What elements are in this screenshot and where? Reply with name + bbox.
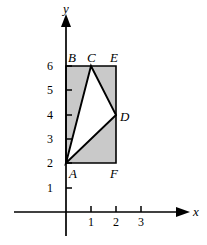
point-label-A: A xyxy=(69,167,77,180)
y-tick-label-6: 6 xyxy=(44,60,56,72)
coordinate-plane-figure xyxy=(0,0,207,245)
x-axis-arrow-icon xyxy=(176,207,190,217)
y-tick-label-3: 3 xyxy=(44,133,56,145)
x-tick-label-1: 1 xyxy=(85,216,97,228)
y-axis-label: y xyxy=(63,2,69,15)
y-tick-label-5: 5 xyxy=(44,84,56,96)
x-tick-label-2: 2 xyxy=(110,216,122,228)
y-tick-label-2: 2 xyxy=(44,157,56,169)
x-axis-label: x xyxy=(193,205,199,218)
y-tick-label-1: 1 xyxy=(44,182,56,194)
x-tick-label-3: 3 xyxy=(135,216,147,228)
point-label-D: D xyxy=(120,110,129,123)
y-tick-label-4: 4 xyxy=(44,109,56,121)
point-label-B: B xyxy=(68,51,76,64)
point-label-E: E xyxy=(110,51,118,64)
point-label-C: C xyxy=(87,51,96,64)
point-label-F: F xyxy=(110,167,118,180)
